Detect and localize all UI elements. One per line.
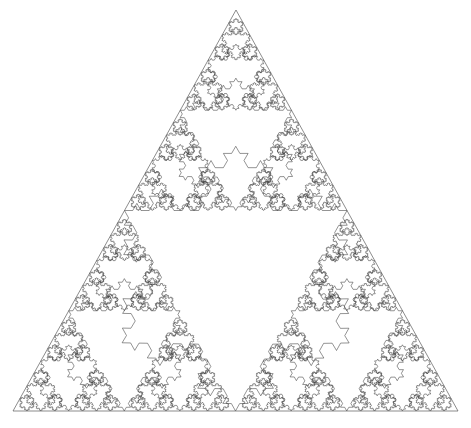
figure-background xyxy=(0,0,471,428)
fractal-figure xyxy=(0,0,471,428)
fractal-canvas xyxy=(0,0,471,428)
